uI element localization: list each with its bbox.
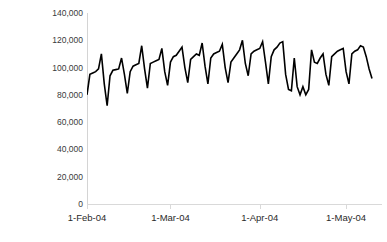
y-tick-label: 0	[30, 199, 83, 209]
y-tick-label: 20,000	[30, 172, 83, 182]
x-axis-tick	[260, 205, 261, 209]
data-series-line	[87, 13, 382, 204]
series-polyline	[87, 40, 372, 105]
x-axis-tick	[87, 205, 88, 209]
y-tick-label: 80,000	[30, 90, 83, 100]
x-axis-tick	[170, 205, 171, 209]
x-axis-tick	[346, 205, 347, 209]
y-tick-label: 40,000	[30, 144, 83, 154]
x-axis-tick-labels: 1-Feb-041-Mar-041-Apr-041-May-04	[0, 211, 387, 229]
vehicles-in-tunnel-line-chart: # Vehicles in Tunnel 020,00040,00060,000…	[0, 0, 387, 242]
x-tick-label: 1-Mar-04	[130, 211, 210, 225]
y-axis-tick-labels: 020,00040,00060,00080,000100,000120,0001…	[30, 0, 83, 242]
x-tick-label: 1-Feb-04	[47, 211, 127, 225]
y-tick-label: 60,000	[30, 117, 83, 127]
y-tick-label: 120,000	[30, 35, 83, 45]
y-tick-label: 100,000	[30, 63, 83, 73]
plot-area	[87, 13, 382, 204]
y-tick-label: 140,000	[30, 8, 83, 18]
x-axis-line	[87, 204, 382, 205]
x-tick-label: 1-May-04	[306, 211, 386, 225]
x-tick-label: 1-Apr-04	[220, 211, 300, 225]
